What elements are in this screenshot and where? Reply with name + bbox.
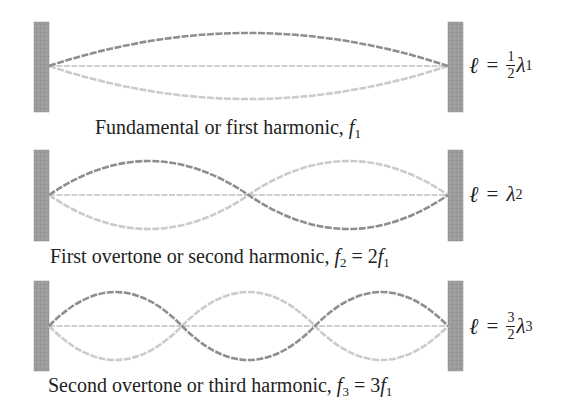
- left-wall: [34, 22, 49, 112]
- caption-fundamental: Fundamental or first harmonic, f1: [95, 117, 361, 137]
- fraction: 3 2: [506, 311, 515, 342]
- length-symbol: ℓ: [469, 184, 479, 205]
- right-wall: [448, 150, 463, 241]
- left-wall: [34, 150, 49, 241]
- equals-sign: =: [487, 184, 499, 205]
- standing-wave-harmonics-diagram: ℓ = 1 2 λ1 ℓ = λ2 ℓ = 3 2 λ3 Fundamental…: [0, 0, 570, 419]
- wavelength-symbol: λ: [516, 316, 525, 337]
- caption-second-harmonic: First overtone or second harmonic, f2 = …: [50, 246, 390, 266]
- panel-second-harmonic: [34, 150, 463, 241]
- right-wall: [448, 22, 463, 112]
- fraction: 1 2: [506, 50, 515, 81]
- panel-fundamental: [34, 22, 463, 112]
- equals-sign: =: [487, 316, 499, 337]
- right-wall: [448, 281, 463, 371]
- length-symbol: ℓ: [469, 316, 479, 337]
- equation-second-harmonic: ℓ = λ2: [469, 184, 523, 205]
- equation-third-harmonic: ℓ = 3 2 λ3: [469, 311, 533, 342]
- equals-sign: =: [487, 55, 499, 76]
- left-wall: [34, 281, 49, 371]
- wavelength-symbol: λ: [516, 55, 525, 76]
- panel-third-harmonic: [34, 281, 463, 371]
- string-lower-envelope: [49, 66, 448, 99]
- wavelength-symbol: λ: [506, 184, 515, 205]
- length-symbol: ℓ: [469, 55, 479, 76]
- caption-third-harmonic: Second overtone or third harmonic, f3 = …: [48, 375, 392, 395]
- equation-fundamental: ℓ = 1 2 λ1: [469, 50, 533, 81]
- string-upper-envelope: [49, 33, 448, 66]
